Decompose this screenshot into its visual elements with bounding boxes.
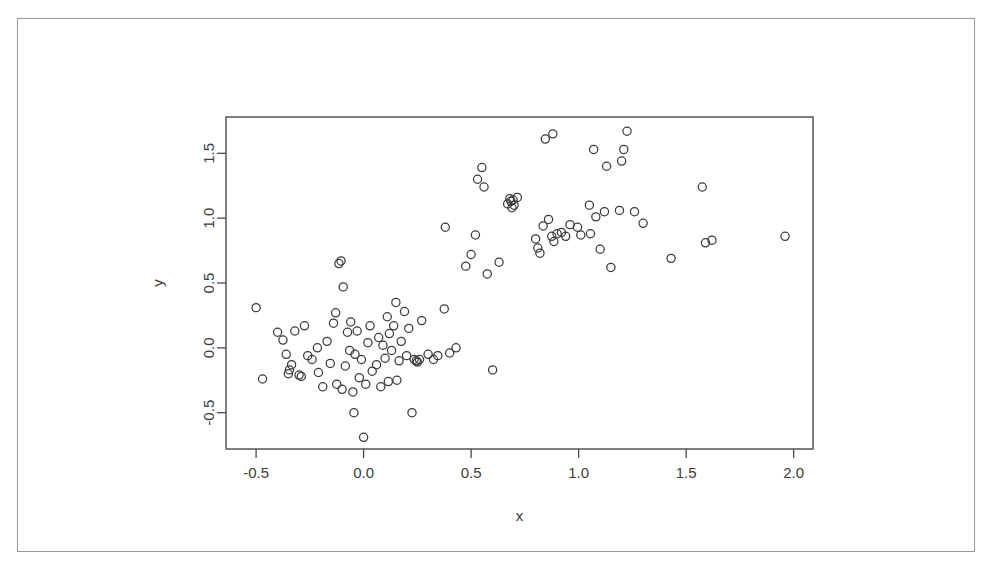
- data-point: [400, 307, 408, 315]
- data-point: [366, 322, 374, 330]
- data-point: [337, 257, 345, 265]
- data-point: [573, 223, 581, 231]
- data-point: [618, 157, 626, 165]
- data-point: [332, 309, 340, 317]
- screenshot-page: -0.50.00.51.01.52.0-0.50.00.51.01.5xy: [0, 0, 995, 580]
- data-point: [353, 327, 361, 335]
- data-point: [600, 208, 608, 216]
- data-point: [480, 183, 488, 191]
- data-point: [335, 259, 343, 267]
- data-point: [620, 145, 628, 153]
- data-point: [362, 380, 370, 388]
- data-point: [329, 319, 337, 327]
- data-point: [282, 350, 290, 358]
- y-axis-title: y: [149, 279, 166, 287]
- data-point: [639, 219, 647, 227]
- data-point: [385, 329, 393, 337]
- data-point: [440, 305, 448, 313]
- data-point: [392, 298, 400, 306]
- y-tick-label: 1.5: [200, 143, 217, 164]
- data-point: [291, 327, 299, 335]
- data-point: [577, 231, 585, 239]
- data-point: [592, 213, 600, 221]
- data-point: [323, 337, 331, 345]
- data-point: [698, 183, 706, 191]
- data-point: [274, 328, 282, 336]
- data-point: [596, 245, 604, 253]
- data-point: [252, 304, 260, 312]
- data-point: [602, 162, 610, 170]
- data-point: [343, 328, 351, 336]
- data-point: [395, 357, 403, 365]
- data-point: [287, 361, 295, 369]
- data-point: [349, 388, 357, 396]
- data-point: [473, 175, 481, 183]
- y-tick-label: -0.5: [200, 400, 217, 426]
- data-point: [667, 254, 675, 262]
- scatter-points-group: [252, 127, 789, 441]
- y-tick-label: 0.0: [200, 337, 217, 358]
- data-point: [314, 368, 322, 376]
- data-point: [623, 127, 631, 135]
- data-point: [586, 230, 594, 238]
- data-point: [549, 130, 557, 138]
- data-point: [536, 249, 544, 257]
- data-point: [615, 206, 623, 214]
- data-point: [532, 235, 540, 243]
- data-point: [347, 318, 355, 326]
- data-point: [418, 317, 426, 325]
- x-tick-label: 1.5: [676, 464, 697, 481]
- y-tick-label: 1.0: [200, 208, 217, 229]
- data-point: [550, 237, 558, 245]
- data-point: [375, 333, 383, 341]
- data-point: [471, 231, 479, 239]
- data-point: [258, 375, 266, 383]
- data-point: [339, 283, 347, 291]
- data-point: [372, 361, 380, 369]
- data-point: [279, 336, 287, 344]
- data-point: [405, 324, 413, 332]
- image-outer-border: -0.50.00.51.01.52.0-0.50.00.51.01.5xy: [17, 18, 975, 552]
- data-point: [630, 208, 638, 216]
- data-point: [441, 223, 449, 231]
- data-point: [333, 380, 341, 388]
- data-point: [384, 377, 392, 385]
- y-tick-label: 0.5: [200, 273, 217, 294]
- x-tick-label: -0.5: [243, 464, 269, 481]
- data-point: [313, 344, 321, 352]
- data-point: [381, 354, 389, 362]
- data-point: [489, 366, 497, 374]
- data-point: [360, 433, 368, 441]
- data-point: [357, 355, 365, 363]
- data-point: [478, 163, 486, 171]
- scatter-plot-figure: -0.50.00.51.01.52.0-0.50.00.51.01.5xy: [18, 19, 974, 551]
- data-point: [483, 270, 491, 278]
- data-point: [350, 409, 358, 417]
- data-point: [590, 145, 598, 153]
- data-point: [364, 339, 372, 347]
- data-point: [341, 362, 349, 370]
- data-point: [781, 232, 789, 240]
- data-point: [390, 322, 398, 330]
- data-point: [424, 350, 432, 358]
- data-point: [326, 359, 334, 367]
- data-point: [379, 341, 387, 349]
- data-point: [544, 215, 552, 223]
- data-point: [355, 374, 363, 382]
- data-point: [397, 337, 405, 345]
- data-point: [467, 250, 475, 258]
- data-point: [607, 263, 615, 271]
- data-point: [383, 313, 391, 321]
- x-axis-title: x: [516, 507, 524, 524]
- data-point: [452, 344, 460, 352]
- data-point: [541, 135, 549, 143]
- x-tick-label: 2.0: [783, 464, 804, 481]
- data-point: [300, 322, 308, 330]
- data-point: [393, 376, 401, 384]
- data-point: [403, 352, 411, 360]
- data-point: [338, 385, 346, 393]
- data-point: [534, 244, 542, 252]
- data-point: [462, 262, 470, 270]
- x-tick-label: 1.0: [568, 464, 589, 481]
- data-point: [377, 383, 385, 391]
